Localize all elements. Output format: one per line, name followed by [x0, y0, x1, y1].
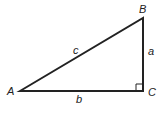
right-angle-marker [136, 84, 143, 91]
vertex-label-c-upper: C [148, 86, 156, 98]
vertex-label-a-upper: A [6, 85, 14, 97]
right-triangle-diagram: A B C c a b [0, 0, 162, 115]
side-label-a: a [148, 45, 154, 57]
triangle-outline [20, 18, 143, 91]
side-label-c: c [73, 44, 79, 56]
side-label-b: b [76, 93, 82, 105]
vertex-label-b-upper: B [139, 3, 146, 15]
